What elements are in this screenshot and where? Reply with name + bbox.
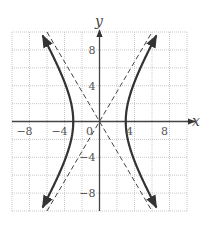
y-tick-label: 4 xyxy=(89,80,96,93)
x-axis-label: x xyxy=(192,113,200,129)
hyperbola-chart: −8−404884−4−8 x y xyxy=(0,0,207,248)
x-tick-label: −4 xyxy=(51,125,67,138)
y-tick-label: −4 xyxy=(79,151,95,164)
x-tick-label: 4 xyxy=(126,125,133,138)
y-tick-label: −8 xyxy=(79,187,95,200)
x-tick-label: 0 xyxy=(86,125,93,138)
x-tick-label: −8 xyxy=(16,125,32,138)
x-tick-label: 8 xyxy=(161,125,168,138)
axes xyxy=(12,30,195,211)
y-axis-label: y xyxy=(94,13,104,29)
y-tick-label: 8 xyxy=(89,44,96,57)
